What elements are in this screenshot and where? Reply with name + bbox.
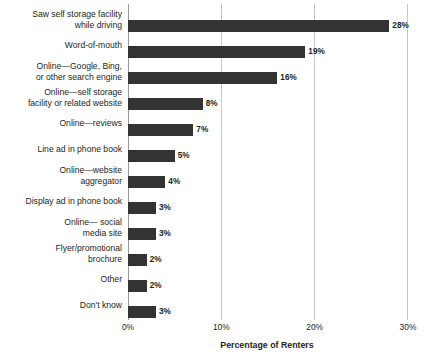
bar (128, 150, 175, 162)
bar-row: Word-of-mouth19% (0, 36, 432, 62)
x-tick-label: 20% (306, 322, 323, 332)
bar-row: Online— social media site3% (0, 218, 432, 244)
bar (128, 72, 277, 84)
bar-chart: Saw self storage facility while driving2… (0, 0, 432, 361)
bar (128, 46, 305, 58)
bar-container: 28% (128, 20, 409, 32)
bar-value-label: 8% (203, 98, 218, 110)
category-label: Online—reviews (4, 118, 122, 129)
bar (128, 280, 147, 292)
bar-container: 2% (128, 254, 162, 266)
bar-row: Other2% (0, 270, 432, 296)
x-axis-title: Percentage of Renters (0, 340, 432, 350)
bar (128, 254, 147, 266)
bar-row: Saw self storage facility while driving2… (0, 10, 432, 36)
bar-row: Online—Google, Bing, or other search eng… (0, 62, 432, 88)
x-tick-label: 10% (213, 322, 230, 332)
bar-row: Online—self storage facility or related … (0, 88, 432, 114)
bar (128, 176, 165, 188)
bar-row: Online—website aggregator4% (0, 166, 432, 192)
bar-rows: Saw self storage facility while driving2… (0, 0, 432, 320)
bar (128, 98, 203, 110)
bar (128, 20, 389, 32)
bar-value-label: 28% (389, 20, 408, 32)
category-label: Online—self storage facility or related … (4, 87, 122, 108)
bar (128, 306, 156, 318)
bar-container: 7% (128, 124, 208, 136)
category-label: Online— social media site (4, 217, 122, 238)
bar-container: 3% (128, 202, 171, 214)
bar-container: 5% (128, 150, 190, 162)
bar-container: 2% (128, 280, 162, 292)
category-label: Line ad in phone book (4, 144, 122, 155)
bar-value-label: 2% (147, 254, 162, 266)
bar-row: Don't know3% (0, 296, 432, 322)
bar (128, 124, 193, 136)
bar-value-label: 3% (156, 228, 171, 240)
bar-value-label: 2% (147, 280, 162, 292)
category-label: Don't know (4, 300, 122, 311)
bar-container: 3% (128, 306, 171, 318)
bar-value-label: 4% (165, 176, 180, 188)
category-label: Online—website aggregator (4, 165, 122, 186)
bar-row: Display ad in phone book3% (0, 192, 432, 218)
bar-row: Line ad in phone book5% (0, 140, 432, 166)
bar-container: 19% (128, 46, 325, 58)
bar-value-label: 5% (175, 150, 190, 162)
bar-container: 3% (128, 228, 171, 240)
category-label: Display ad in phone book (4, 196, 122, 207)
category-label: Saw self storage facility while driving (4, 9, 122, 30)
x-tick-label: 0% (122, 322, 134, 332)
bar (128, 202, 156, 214)
bar-row: Online—reviews7% (0, 114, 432, 140)
bar-value-label: 19% (305, 46, 324, 58)
bar-container: 8% (128, 98, 218, 110)
category-label: Word-of-mouth (4, 40, 122, 51)
bar-value-label: 16% (277, 72, 296, 84)
bar (128, 228, 156, 240)
bar-container: 4% (128, 176, 180, 188)
bar-row: Flyer/promotional brochure2% (0, 244, 432, 270)
bar-value-label: 3% (156, 202, 171, 214)
bar-container: 16% (128, 72, 297, 84)
x-tick-label: 30% (400, 322, 417, 332)
x-axis: 0%10%20%30% Percentage of Renters (0, 320, 432, 361)
category-label: Online—Google, Bing, or other search eng… (4, 61, 122, 82)
x-axis-title-text: Percentage of Renters (220, 340, 313, 350)
category-label: Flyer/promotional brochure (4, 243, 122, 264)
bar-value-label: 7% (193, 124, 208, 136)
category-label: Other (4, 274, 122, 285)
bar-value-label: 3% (156, 306, 171, 318)
